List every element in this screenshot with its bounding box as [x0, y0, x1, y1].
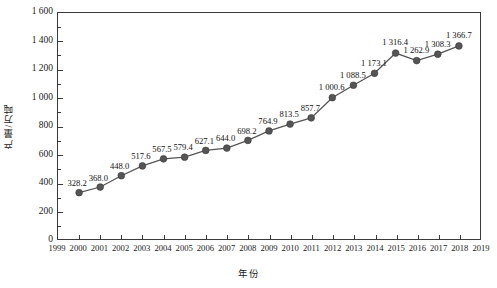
data-point-label: 567.5 [152, 146, 171, 155]
y-major-tick [58, 127, 63, 128]
x-major-tick [142, 235, 143, 239]
data-point-label: 627.1 [195, 137, 214, 146]
x-major-tick [164, 235, 165, 239]
x-tick-label: 2003 [133, 244, 150, 253]
x-major-tick [270, 235, 271, 239]
data-point-label: 1 088.5 [340, 71, 366, 80]
data-point-marker [329, 94, 336, 101]
data-point-marker [456, 43, 463, 50]
x-tick-label: 2013 [345, 244, 362, 253]
x-major-tick [185, 235, 186, 239]
y-minor-tick [58, 226, 61, 227]
y-major-tick [58, 155, 63, 156]
data-point-marker [413, 57, 420, 64]
x-major-tick [460, 235, 461, 239]
y-major-tick [58, 98, 63, 99]
x-major-tick [333, 235, 334, 239]
x-major-tick [397, 235, 398, 239]
x-major-tick [418, 235, 419, 239]
data-point-label: 857.7 [301, 104, 320, 113]
x-tick-label: 2011 [303, 244, 320, 253]
data-point-label: 1 000.6 [319, 84, 345, 93]
x-tick-label: 2016 [409, 244, 426, 253]
x-tick-label: 2004 [154, 244, 171, 253]
data-point-marker [266, 128, 273, 135]
x-tick-label: 2019 [472, 244, 489, 253]
x-major-tick [227, 235, 228, 239]
x-tick-label: 2018 [451, 244, 468, 253]
y-tick-label: 1 000 [32, 93, 53, 103]
data-point-marker [245, 137, 252, 144]
x-tick-label: 2008 [239, 244, 256, 253]
x-major-tick [439, 235, 440, 239]
data-point-label: 698.2 [237, 127, 256, 136]
y-tick-label: 1 600 [32, 7, 53, 17]
data-point-label: 579.4 [174, 144, 193, 153]
y-major-tick [58, 184, 63, 185]
y-tick-label: 1 200 [32, 64, 53, 74]
x-tick-label: 1999 [48, 244, 65, 253]
data-point-label: 644.0 [216, 135, 235, 144]
data-point-label: 368.0 [89, 174, 108, 183]
y-major-tick [58, 41, 63, 42]
x-major-tick [100, 235, 101, 239]
x-major-tick [248, 235, 249, 239]
y-minor-tick [58, 84, 61, 85]
x-tick-label: 2017 [430, 244, 447, 253]
y-tick-label: 200 [39, 207, 53, 217]
x-tick-label: 2010 [282, 244, 299, 253]
x-major-tick [376, 235, 377, 239]
y-tick-label: 400 [39, 178, 53, 188]
x-tick-label: 2000 [70, 244, 87, 253]
y-tick-label: 600 [39, 150, 53, 160]
y-tick-label: 800 [39, 121, 53, 131]
data-point-marker [350, 82, 357, 89]
x-major-tick [291, 235, 292, 239]
data-point-label: 1 173.1 [361, 59, 387, 68]
data-point-label: 1 366.7 [446, 32, 472, 41]
x-axis-tick-labels: 1999200020012002200320042005200620072008… [57, 244, 481, 258]
data-point-marker [308, 114, 315, 121]
data-point-marker [392, 50, 399, 57]
y-major-tick [58, 212, 63, 213]
data-point-marker [76, 189, 83, 196]
data-point-label: 764.9 [258, 117, 277, 126]
x-major-tick [312, 235, 313, 239]
data-point-marker [118, 172, 125, 179]
data-point-marker [287, 121, 294, 128]
data-point-marker [371, 70, 378, 77]
x-major-tick [206, 235, 207, 239]
y-axis-tick-labels: 02004006008001 0001 2001 4001 600 [0, 0, 53, 288]
data-point-marker [202, 147, 209, 154]
y-minor-tick [58, 112, 61, 113]
data-point-marker [181, 154, 188, 161]
data-point-label: 448.0 [110, 163, 129, 172]
x-tick-label: 2014 [366, 244, 383, 253]
x-tick-label: 2005 [176, 244, 193, 253]
y-minor-tick [58, 55, 61, 56]
data-point-marker [434, 51, 441, 58]
y-tick-label: 1 400 [32, 36, 53, 46]
data-point-label: 517.6 [131, 153, 150, 162]
y-minor-tick [58, 141, 61, 142]
x-tick-label: 2015 [388, 244, 405, 253]
y-minor-tick [58, 27, 61, 28]
y-minor-tick [58, 169, 61, 170]
chart-container: 产量/万吨 02004006008001 0001 2001 4001 600 … [0, 0, 497, 288]
x-tick-label: 2006 [197, 244, 214, 253]
x-major-tick [354, 235, 355, 239]
data-point-marker [97, 184, 104, 191]
x-tick-label: 2007 [218, 244, 235, 253]
data-point-marker [160, 155, 167, 162]
x-tick-label: 2002 [112, 244, 129, 253]
x-axis-title: 年份 [0, 266, 497, 280]
x-tick-label: 2009 [260, 244, 277, 253]
data-point-label: 813.5 [280, 110, 299, 119]
data-point-marker [139, 163, 146, 170]
data-point-label: 1 308.3 [425, 40, 451, 49]
x-tick-label: 2001 [91, 244, 108, 253]
data-point-marker [223, 145, 230, 152]
data-point-label: 328.2 [68, 180, 87, 189]
x-major-tick [79, 235, 80, 239]
x-tick-label: 2012 [324, 244, 341, 253]
